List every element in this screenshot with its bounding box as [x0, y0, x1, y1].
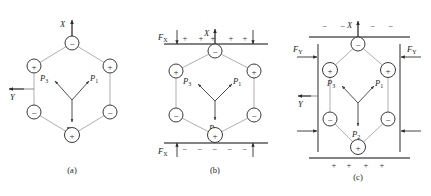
vector-label-p3-b: P3	[182, 76, 191, 87]
surface-charge-b-bot-5: −	[243, 144, 248, 154]
lattice-node-top-b: −	[208, 44, 222, 58]
lattice-node-bottom-a: +	[65, 128, 80, 143]
svg-text:−: −	[107, 108, 112, 118]
surface-charge-b-bot-1: −	[183, 144, 188, 154]
surface-charge-c-top-3: −	[371, 21, 376, 31]
vector-label-p3-c: P3	[326, 78, 335, 89]
panel-b: + + + + + FX − − − − − FX X	[157, 28, 268, 175]
svg-text:−: −	[31, 108, 36, 118]
panel-b-lattice	[176, 51, 254, 135]
panel-c-top-plate: − − − −	[309, 21, 410, 37]
vector-label-p1-a: P1	[89, 73, 98, 84]
force-label-fy-left-c: FY	[292, 44, 303, 55]
panel-a-nodes: − + + − − +	[27, 36, 117, 143]
vector-label-p2-c: P2	[351, 129, 360, 140]
lattice-node-upper-left-b: +	[169, 64, 183, 78]
surface-charge-b-bot-3: −	[213, 144, 218, 154]
axis-label-x-a: X	[59, 19, 66, 29]
panel-c-vectors: P1 P3 P2	[326, 78, 383, 140]
svg-text:−: −	[385, 115, 390, 125]
lattice-node-lower-left-a: −	[27, 105, 41, 119]
axis-label-y-a: Y	[10, 92, 16, 102]
lattice-node-top-c: −	[351, 37, 365, 51]
vector-label-p1-b: P1	[232, 76, 241, 87]
panel-c: − − − − + + + + FY FY	[292, 20, 421, 182]
svg-text:−: −	[355, 40, 360, 50]
svg-text:+: +	[212, 131, 217, 141]
surface-charge-c-bot-3: +	[364, 160, 369, 170]
lattice-node-upper-right-c: +	[381, 63, 396, 78]
lattice-node-lower-right-a: −	[103, 105, 117, 119]
axis-label-y-c: Y	[298, 99, 304, 109]
panel-c-bottom-plate: + + + +	[309, 158, 410, 170]
surface-charge-c-top-4: −	[389, 21, 394, 31]
force-label-fx-bottom-b: FX	[157, 146, 168, 157]
svg-text:+: +	[107, 62, 112, 72]
surface-charge-b-top-1: +	[183, 33, 188, 43]
lattice-node-upper-right-b: +	[247, 64, 261, 78]
lattice-node-upper-right-a: +	[103, 59, 117, 73]
lattice-node-top-a: −	[65, 36, 79, 50]
svg-text:+: +	[355, 143, 360, 153]
force-label-fx-top-b: FX	[157, 32, 168, 43]
surface-charge-b-top-5: +	[243, 33, 248, 43]
svg-text:+: +	[385, 66, 390, 76]
panel-c-left-plate: FY	[292, 44, 318, 152]
lattice-node-upper-left-c: +	[323, 63, 338, 78]
svg-text:−: −	[69, 39, 74, 49]
lattice-node-lower-right-b: −	[247, 108, 261, 122]
surface-charge-c-bot-1: +	[332, 160, 337, 170]
panel-c-lattice	[330, 44, 388, 147]
axis-label-x-c: X	[346, 20, 353, 30]
svg-text:+: +	[69, 131, 74, 141]
panel-b-nodes: − + + − − +	[169, 44, 261, 143]
panel-b-bottom-plate: − − − − − FX	[157, 143, 268, 157]
svg-text:+: +	[327, 66, 332, 76]
panel-b-top-plate: + + + + + FX	[157, 30, 268, 44]
vector-label-p1-c: P1	[374, 78, 383, 89]
svg-text:−: −	[212, 47, 217, 57]
panel-a: X Y P1 P3 P2 − + +	[9, 19, 117, 175]
surface-charge-b-bot-2: −	[198, 144, 203, 154]
svg-text:+: +	[251, 67, 256, 77]
surface-charge-b-bot-4: −	[228, 144, 233, 154]
surface-charge-c-bot-4: +	[380, 160, 385, 170]
panel-a-vectors: P1 P3 P2	[39, 73, 98, 136]
panel-caption-a: (a)	[67, 165, 77, 175]
surface-charge-b-top-4: +	[229, 33, 234, 43]
panel-caption-b: (b)	[210, 165, 220, 175]
surface-charge-c-bot-2: +	[347, 160, 352, 170]
surface-charge-b-top-2: +	[199, 33, 204, 43]
lattice-node-lower-left-c: −	[323, 112, 337, 126]
panel-caption-c: (c)	[353, 172, 363, 182]
svg-text:−: −	[173, 111, 178, 121]
svg-text:+: +	[173, 67, 178, 77]
vector-label-p3-a: P3	[39, 73, 48, 84]
svg-text:−: −	[327, 115, 332, 125]
piezoelectric-lattice-figure: X Y P1 P3 P2 − + +	[0, 0, 431, 196]
surface-charge-c-top-1: −	[323, 21, 328, 31]
lattice-node-bottom-c: +	[351, 140, 366, 155]
force-label-fy-right-c: FY	[406, 44, 417, 55]
panel-b-vectors: P1 P3 P2	[182, 76, 241, 134]
lattice-node-lower-left-b: −	[169, 108, 183, 122]
lattice-node-upper-left-a: +	[27, 59, 41, 73]
lattice-node-bottom-b: +	[208, 128, 223, 143]
surface-charge-c-top-2: −	[341, 21, 346, 31]
svg-text:−: −	[251, 111, 256, 121]
svg-text:+: +	[31, 62, 36, 72]
lattice-node-lower-right-c: −	[381, 112, 395, 126]
panel-c-right-plate: FY	[400, 44, 421, 152]
axis-label-x-b: X	[203, 28, 210, 38]
